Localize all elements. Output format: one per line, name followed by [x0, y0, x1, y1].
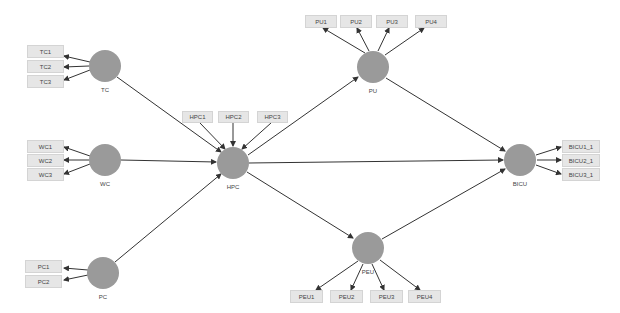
indicator-pu1[interactable]: PU1	[305, 15, 337, 28]
indicator-hpc3[interactable]: HPC3	[257, 111, 288, 123]
indicator-peu3[interactable]: PEU3	[370, 290, 403, 303]
indicator-hpc2[interactable]: HPC2	[218, 111, 249, 123]
latent-label-bicu: BICU	[500, 181, 540, 187]
indicator-peu1[interactable]: PEU1	[290, 290, 323, 303]
latent-label-tc: TC	[85, 87, 125, 93]
indicator-pu2[interactable]: PU2	[340, 15, 372, 28]
indicator-hpc1[interactable]: HPC1	[182, 111, 213, 123]
indicator-pu4[interactable]: PU4	[415, 15, 447, 28]
indicator-peu2[interactable]: PEU2	[330, 290, 363, 303]
indicator-pc1[interactable]: PC1	[25, 260, 62, 273]
indicator-wc2[interactable]: WC2	[27, 154, 64, 167]
latent-label-pc: PC	[83, 294, 123, 300]
latent-node-wc[interactable]	[89, 144, 121, 176]
latent-node-peu[interactable]	[352, 232, 384, 264]
indicator-wc1[interactable]: WC1	[27, 140, 64, 153]
arrows	[64, 28, 561, 290]
latent-label-pu: PU	[353, 88, 393, 94]
indicator-peu4[interactable]: PEU4	[408, 290, 441, 303]
indicator-wc3[interactable]: WC3	[27, 168, 64, 181]
indicator-bicu3[interactable]: BICU3_1	[562, 168, 600, 181]
latent-label-peu: PEU	[348, 269, 388, 275]
indicator-tc3[interactable]: TC3	[27, 75, 64, 88]
indicator-pc2[interactable]: PC2	[25, 275, 62, 288]
latent-label-wc: WC	[85, 181, 125, 187]
latent-node-pu[interactable]	[357, 51, 389, 83]
indicator-pu3[interactable]: PU3	[376, 15, 408, 28]
latent-node-pc[interactable]	[87, 257, 119, 289]
diagram-canvas	[0, 0, 620, 313]
indicator-tc1[interactable]: TC1	[27, 45, 64, 58]
latent-node-hpc[interactable]	[217, 147, 249, 179]
latent-circles	[87, 50, 536, 289]
latent-label-hpc: HPC	[213, 184, 253, 190]
indicator-tc2[interactable]: TC2	[27, 60, 64, 73]
latent-node-tc[interactable]	[89, 50, 121, 82]
indicator-bicu2[interactable]: BICU2_1	[562, 154, 600, 167]
indicator-bicu1[interactable]: BICU1_1	[562, 140, 600, 153]
latent-node-bicu[interactable]	[504, 144, 536, 176]
